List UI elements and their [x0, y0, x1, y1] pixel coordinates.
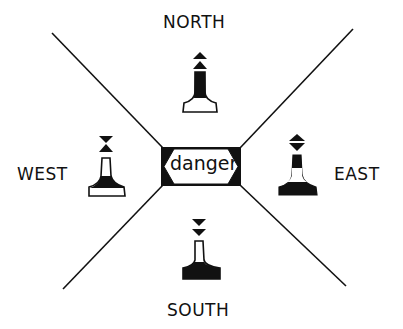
- line-se: [240, 185, 346, 286]
- north-label: NORTH: [163, 12, 225, 32]
- danger-label: danger: [170, 152, 232, 174]
- east-buoy-icon: [279, 134, 317, 195]
- west-label: WEST: [17, 164, 68, 184]
- line-sw: [63, 185, 163, 289]
- line-nw: [52, 33, 163, 148]
- south-buoy-icon: [183, 219, 220, 279]
- east-label: EAST: [334, 164, 380, 184]
- north-buoy-icon: [183, 52, 217, 112]
- line-ne: [240, 29, 353, 148]
- west-buoy-icon: [89, 136, 125, 196]
- south-label: SOUTH: [167, 300, 229, 320]
